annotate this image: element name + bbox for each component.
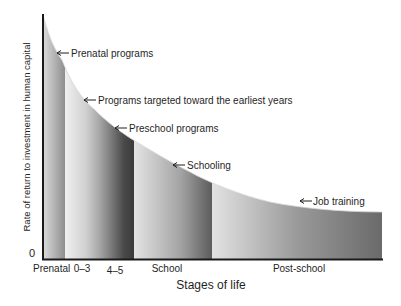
rate-of-return-chart: Prenatal programs Programs targeted towa… xyxy=(0,0,401,306)
svg-text:Programs targeted toward the e: Programs targeted toward the earliest ye… xyxy=(98,95,293,106)
svg-text:Schooling: Schooling xyxy=(187,160,231,171)
segment-post-school xyxy=(212,10,382,260)
x-tick-0-3: 0–3 xyxy=(74,263,91,274)
annotation-prenatal-programs: Prenatal programs xyxy=(57,48,153,59)
svg-text:Preschool programs: Preschool programs xyxy=(129,123,218,134)
arrow-left-icon xyxy=(300,199,312,204)
svg-text:Job training: Job training xyxy=(313,196,365,207)
annotation-preschool-programs: Preschool programs xyxy=(115,123,218,134)
svg-text:Prenatal programs: Prenatal programs xyxy=(71,48,153,59)
segment-prenatal xyxy=(43,10,65,260)
x-tick-4-5: 4–5 xyxy=(107,265,124,276)
x-tick-post-school: Post-school xyxy=(273,263,325,274)
x-tick-prenatal: Prenatal xyxy=(33,263,70,274)
x-axis-title: Stages of life xyxy=(176,278,246,292)
annotation-job-training: Job training xyxy=(300,196,365,207)
annotation-earliest-years: Programs targeted toward the earliest ye… xyxy=(84,95,293,106)
x-tick-school: School xyxy=(152,263,183,274)
y-axis-title: Rate of return to investment in human ca… xyxy=(21,42,32,231)
y-tick-zero: 0 xyxy=(29,247,35,259)
